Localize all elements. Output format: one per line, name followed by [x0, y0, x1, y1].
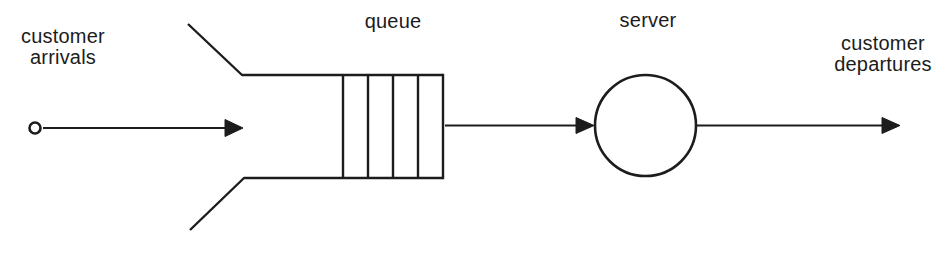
arrival-source-circle-icon	[30, 123, 41, 134]
arrival-arrowhead-icon	[225, 120, 243, 137]
customer-departures-label: customer departures	[823, 33, 943, 75]
queue-label: queue	[343, 11, 443, 32]
departure-arrow-icon	[697, 118, 900, 134]
arrival-arrow-icon	[43, 120, 243, 137]
departure-arrowhead-icon	[882, 118, 900, 134]
queue-funnel-bottom	[190, 178, 443, 230]
customer-arrivals-label: customer arrivals	[7, 26, 119, 68]
queue-to-server-arrow-icon	[445, 118, 594, 134]
queueing-diagram: customer arrivals queue server customer …	[0, 0, 950, 255]
diagram-canvas	[0, 0, 950, 255]
queue-to-server-arrowhead-icon	[576, 118, 594, 134]
server-label: server	[598, 10, 698, 31]
server-circle-icon	[595, 75, 696, 176]
